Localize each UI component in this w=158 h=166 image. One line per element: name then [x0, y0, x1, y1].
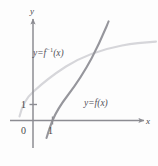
forward-function-curve-label: y=f(x) [84, 99, 108, 109]
x-axis-label: x [146, 117, 150, 126]
inverse-label-argument: (x) [53, 48, 64, 58]
forward-label-argument: (x) [97, 98, 108, 108]
origin-label: 0 [21, 126, 26, 136]
plot-canvas [0, 0, 158, 166]
y-axis-label: y [30, 7, 34, 16]
y-axis-tick-label-1: 1 [21, 100, 26, 110]
x-axis-tick-label-1: 1 [48, 126, 53, 136]
inverse-function-graph-figure: y x 0 1 1 y=f−1(x) y=f(x) [0, 0, 158, 166]
inverse-function-curve-label: y=f−1(x) [33, 49, 64, 59]
